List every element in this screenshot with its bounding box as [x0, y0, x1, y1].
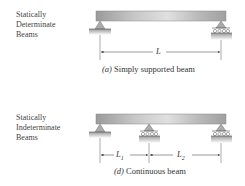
- caption-text: Continuous beam: [126, 166, 186, 176]
- category-line: Indeterminate: [16, 123, 60, 133]
- panel-continuous: [89, 114, 232, 163]
- caption-letter: (d): [114, 166, 124, 176]
- caption-simply-supported: (a) Simply supported beam: [102, 64, 195, 74]
- dimension-label-L: L: [156, 46, 161, 56]
- beam: [96, 114, 226, 124]
- dimension-label-L2: L2: [177, 149, 185, 161]
- category-line: Determinate: [16, 20, 56, 30]
- category-label-indeterminate: Statically Indeterminate Beams: [16, 113, 60, 143]
- pin-support-icon: [89, 124, 111, 138]
- pin-support-icon: [89, 21, 111, 35]
- roller-support-icon: [211, 21, 232, 40]
- category-line: Beams: [16, 30, 56, 40]
- roller-support-icon: [211, 124, 232, 143]
- caption-continuous: (d) Continuous beam: [114, 166, 186, 176]
- caption-letter: (a): [102, 64, 112, 74]
- roller-support-icon: [139, 124, 160, 143]
- category-line: Statically: [16, 10, 56, 20]
- category-line: Statically: [16, 113, 60, 123]
- beam: [96, 11, 226, 21]
- caption-text: Simply supported beam: [114, 64, 195, 74]
- category-line: Beams: [16, 133, 60, 143]
- category-label-determinate: Statically Determinate Beams: [16, 10, 56, 40]
- dimension-label-L1: L1: [116, 149, 124, 161]
